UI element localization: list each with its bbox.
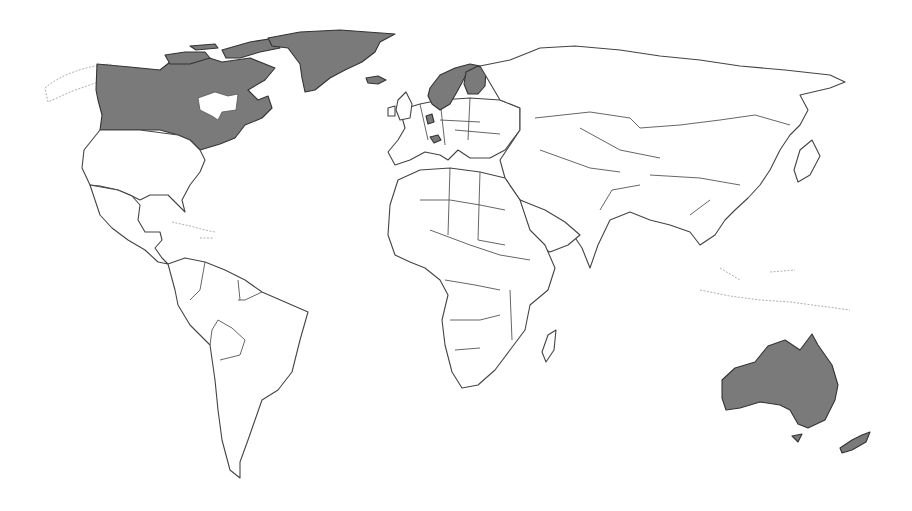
region-madagascar (542, 330, 556, 362)
region-uk (396, 92, 412, 120)
region-japan (794, 140, 820, 182)
region-australia[interactable] (722, 334, 838, 428)
region-new-zealand[interactable] (840, 432, 870, 453)
region-mexico (90, 185, 168, 264)
region-indonesia (700, 268, 850, 310)
region-netherlands[interactable] (426, 114, 434, 124)
world-map (0, 0, 912, 511)
region-south-america (168, 258, 308, 478)
region-ireland (388, 106, 395, 116)
region-caribbean (172, 222, 215, 238)
region-tasmania[interactable] (792, 434, 802, 442)
region-iceland[interactable] (366, 76, 386, 84)
region-canada-arctic-islands[interactable] (165, 38, 280, 64)
